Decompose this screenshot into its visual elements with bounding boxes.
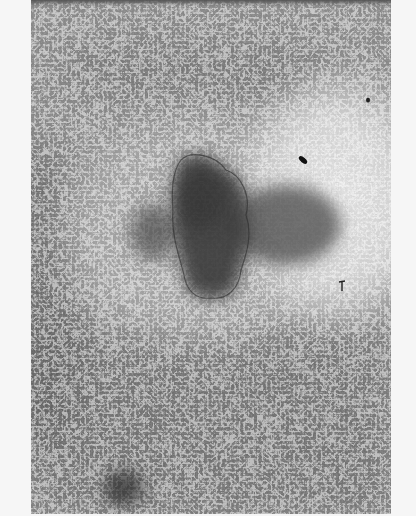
top-edge-shadow	[31, 0, 391, 6]
micrograph-render	[31, 0, 391, 514]
page	[0, 0, 416, 516]
micrograph-image	[31, 0, 391, 514]
